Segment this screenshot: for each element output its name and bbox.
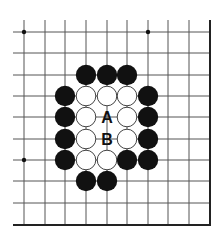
black-stone bbox=[76, 171, 96, 191]
go-board: AB bbox=[0, 0, 222, 240]
white-stone bbox=[76, 150, 96, 170]
black-stone bbox=[55, 86, 75, 106]
white-stone bbox=[76, 107, 96, 127]
white-stone bbox=[97, 150, 117, 170]
point-label-b: B bbox=[101, 131, 113, 148]
white-stone bbox=[117, 107, 137, 127]
star-point-icon bbox=[22, 158, 26, 162]
black-stone bbox=[76, 65, 96, 85]
white-stone bbox=[76, 129, 96, 149]
black-stone bbox=[138, 129, 158, 149]
white-stone bbox=[117, 86, 137, 106]
white-stone bbox=[76, 86, 96, 106]
point-label-a: A bbox=[101, 109, 113, 126]
black-stone bbox=[55, 107, 75, 127]
white-stone bbox=[117, 129, 137, 149]
black-stone bbox=[138, 107, 158, 127]
black-stone bbox=[117, 65, 137, 85]
black-stone bbox=[55, 129, 75, 149]
black-stone bbox=[138, 86, 158, 106]
black-stone bbox=[55, 150, 75, 170]
star-point-icon bbox=[22, 30, 26, 34]
black-stone bbox=[97, 65, 117, 85]
white-stone bbox=[97, 86, 117, 106]
star-point-icon bbox=[146, 30, 150, 34]
black-stone bbox=[117, 150, 137, 170]
black-stone bbox=[138, 150, 158, 170]
black-stone bbox=[97, 171, 117, 191]
